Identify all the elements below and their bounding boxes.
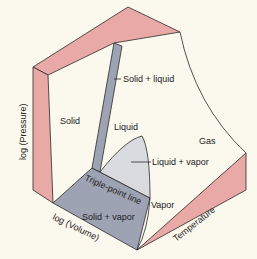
gas-label: Gas: [199, 136, 216, 146]
left-pink-wall: [33, 67, 53, 203]
solid-liquid-label: Solid + liquid: [123, 74, 174, 84]
liquid-vapor-label: Liquid + vapor: [152, 157, 209, 167]
pressure-axis-label: log (Pressure): [18, 103, 28, 160]
pvt-surface-diagram: Solid Solid + liquid Liquid Liquid + vap…: [0, 0, 257, 259]
vapor-label: Vapor: [151, 200, 174, 210]
solid-vapor-label: Solid + vapor: [82, 212, 135, 222]
gas-boundary: [180, 32, 246, 153]
solid-label: Solid: [60, 116, 80, 126]
top-pink-wall: [33, 7, 180, 75]
liquid-label: Liquid: [114, 122, 138, 132]
